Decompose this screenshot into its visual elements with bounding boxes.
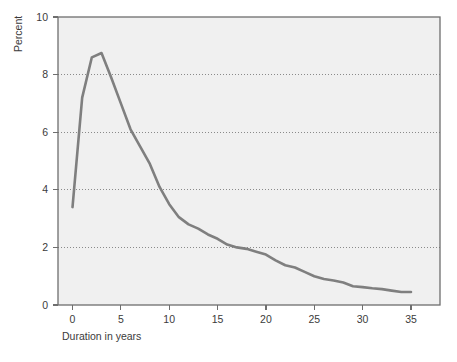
x-axis-ticks: 05101520253035: [70, 305, 417, 325]
y-tick-label-0: 0: [42, 299, 48, 311]
y-tick-label-6: 6: [42, 126, 48, 138]
x-axis-title: Duration in years: [62, 330, 141, 342]
x-tick-label-35: 35: [405, 313, 417, 325]
y-tick-label-4: 4: [42, 183, 48, 195]
x-tick-label-0: 0: [70, 313, 76, 325]
y-tick-label-8: 8: [42, 68, 48, 80]
x-tick-label-30: 30: [357, 313, 369, 325]
y-axis-ticks: 0246810: [36, 11, 58, 311]
y-axis-title: Percent: [12, 16, 24, 52]
y-tick-label-10: 10: [36, 11, 48, 23]
x-tick-label-10: 10: [163, 313, 175, 325]
y-tick-label-2: 2: [42, 241, 48, 253]
x-tick-label-15: 15: [212, 313, 224, 325]
x-tick-label-25: 25: [308, 313, 320, 325]
plot-area-background: [58, 17, 440, 305]
line-chart: 05101520253035 0246810 Duration in years…: [0, 0, 457, 362]
x-tick-label-20: 20: [260, 313, 272, 325]
chart-figure: 05101520253035 0246810 Duration in years…: [0, 0, 457, 362]
plot-background-group: [58, 17, 440, 305]
x-tick-label-5: 5: [118, 313, 124, 325]
